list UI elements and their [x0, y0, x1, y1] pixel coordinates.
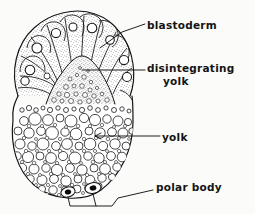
figure-page: blastoderm disintegratingyolk yolk polar…: [0, 0, 255, 214]
label-disintegrating-yolk-line1: disintegrating: [147, 62, 234, 74]
label-blastoderm: blastoderm: [147, 19, 217, 32]
yolk-region: [12, 96, 135, 200]
label-yolk: yolk: [162, 131, 188, 144]
leader-polar-body-branch: [93, 194, 96, 206]
label-disintegrating-yolk: disintegratingyolk: [147, 62, 234, 87]
label-polar-body: polar body: [156, 181, 222, 194]
label-disintegrating-yolk-line2: yolk: [163, 75, 234, 88]
